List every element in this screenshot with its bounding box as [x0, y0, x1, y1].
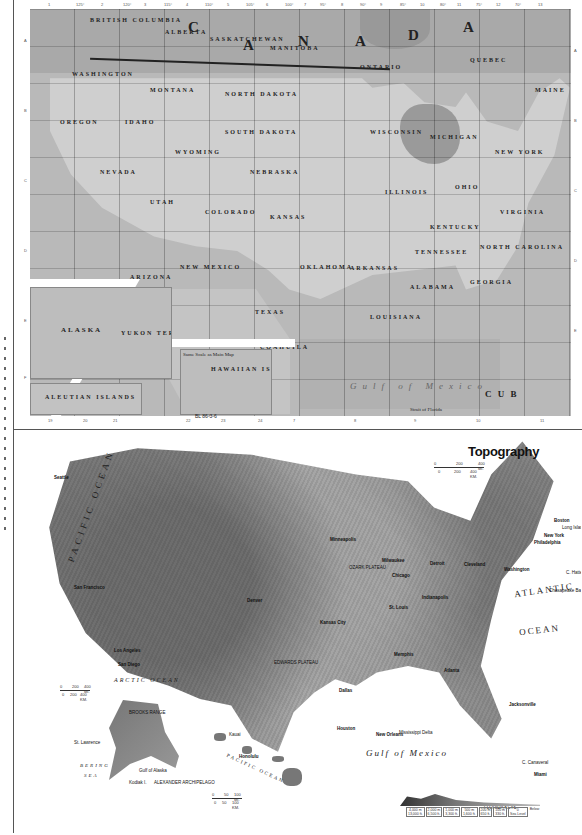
state-label: MICHIGAN: [430, 134, 479, 140]
feature-label: C. Canaveral: [522, 760, 548, 765]
longitude-tick: 80°: [440, 2, 446, 7]
longitude-tick: 75°: [476, 2, 482, 7]
state-label: OREGON: [60, 119, 99, 125]
row-letter: D: [24, 248, 27, 253]
state-label: MAINE: [535, 87, 566, 93]
city-label: Kansas City: [320, 620, 346, 625]
row-letter: B: [24, 108, 27, 113]
scale-label: 100 KM.: [232, 800, 242, 810]
province-label: SASKATCHEWAN: [210, 36, 285, 42]
strait-label: Strait of Florida: [410, 407, 442, 412]
column-number: 23: [221, 418, 225, 423]
city-label: Memphis: [394, 652, 414, 657]
elevation-legend: 4,000 m13,000 ft. 2,000 m6,500 ft. 1,000…: [406, 807, 540, 817]
main-scale-bar: 0 200 400 MI. 0 200 400 KM.: [434, 462, 484, 474]
row-letter: A: [574, 48, 577, 53]
state-label: NEW MEXICO: [180, 264, 241, 270]
column-number: 11: [457, 2, 461, 7]
state-label: WYOMING: [175, 149, 221, 155]
feature-label: OZARK PLATEAU: [349, 565, 386, 570]
cuba-label: C U B: [485, 389, 519, 399]
column-number: 12: [496, 2, 500, 7]
column-number: 4: [186, 2, 188, 7]
scale-label: 200: [456, 461, 463, 466]
state-label: UTAH: [150, 199, 175, 205]
state-label: IDAHO: [125, 119, 155, 125]
province-label: ALBERTA: [165, 29, 207, 35]
column-number: 7: [293, 418, 295, 423]
alaska-label: ALASKA: [61, 326, 102, 334]
city-label: Jacksonville: [509, 702, 536, 707]
city-label: San Francisco: [74, 585, 105, 590]
row-letter: D: [574, 258, 577, 263]
state-label: ALABAMA: [410, 284, 455, 290]
scale-label: 400 KM.: [80, 692, 90, 702]
legend-cell: 0Sea Level: [508, 807, 528, 817]
inset-separator: [30, 279, 130, 287]
legend-cell: 4,000 m13,000 ft.: [406, 807, 425, 817]
scale-label: 0: [438, 469, 440, 474]
scale-label: 50: [222, 800, 226, 805]
political-map: C A N A D A BRITISH COLUMBIA ALBERTA SAS…: [30, 9, 571, 416]
oahu-island: [242, 746, 252, 754]
state-label: NORTH DAKOTA: [225, 91, 298, 97]
scale-label: 0: [434, 461, 436, 466]
column-number: 22: [186, 418, 190, 423]
row-letter: B: [574, 118, 577, 123]
state-label: OHIO: [455, 184, 479, 190]
state-label: NEBRASKA: [250, 169, 299, 175]
state-label: TEXAS: [255, 309, 285, 315]
scale-label: 200: [454, 469, 461, 474]
longitude-tick: 100°: [285, 2, 293, 7]
city-label: Honolulu: [239, 754, 259, 759]
longitude-tick: 120°: [123, 2, 131, 7]
column-number: 9: [380, 2, 382, 7]
feature-label: C. Hatteras: [566, 570, 581, 575]
state-label: KENTUCKY: [430, 224, 481, 230]
state-label: NEVADA: [100, 169, 137, 175]
column-number: 10: [476, 418, 480, 423]
scale-label: 0: [62, 692, 64, 697]
feature-label: Mississippi Delta: [399, 730, 433, 735]
binding-marks: [2, 330, 8, 830]
scale-label: 200: [70, 692, 77, 697]
state-label: ILLINOIS: [385, 189, 428, 195]
hawaii-inset: Same Scale as Main Map HAWAIIAN ISLANDS: [180, 349, 272, 415]
column-number: 9: [414, 418, 416, 423]
state-label: WISCONSIN: [370, 129, 423, 135]
state-label: TENNESSEE: [415, 249, 468, 255]
city-label: Minneapolis: [330, 537, 356, 542]
scale-label: 0: [214, 800, 216, 805]
feature-label: Kauai: [229, 732, 241, 737]
gulf-of-mexico-label: Gulf of Mexico: [366, 748, 448, 758]
legend-cell: 1,000 m3,300 ft.: [443, 807, 460, 817]
atlantic-ocean-label-2: OCEAN: [519, 623, 561, 637]
city-label: San Diego: [118, 662, 140, 667]
row-letter: F: [24, 375, 26, 380]
topography-map: Topography 0 200 400 MI. 0 200 400 KM. P…: [14, 430, 581, 833]
city-label: Atlanta: [444, 668, 459, 673]
column-number: 2: [101, 2, 103, 7]
alaska-inset: ALASKA YUKON TERRITORY: [30, 287, 172, 379]
province-label: QUEBEC: [470, 57, 507, 63]
scale-label: 0: [212, 792, 214, 797]
column-number: 8: [354, 418, 356, 423]
country-label-canada: A: [463, 19, 474, 36]
row-letter: E: [24, 318, 27, 323]
arctic-ocean-label: ARCTIC OCEAN: [114, 677, 180, 683]
legend-cell: 2,000 m6,500 ft.: [426, 807, 443, 817]
map-code: BL 86-3-6: [195, 413, 217, 419]
state-label: ARKANSAS: [350, 265, 399, 271]
column-number: 21: [113, 418, 117, 423]
bering-sea-label-2: SEA: [84, 773, 99, 778]
hawaii-label: HAWAIIAN ISLANDS: [211, 366, 272, 372]
state-label: OKLAHOMA: [300, 264, 353, 270]
city-label: Cleveland: [464, 562, 485, 567]
feature-label: Chesapeake Bay: [549, 588, 581, 593]
state-label: GEORGIA: [470, 279, 513, 285]
longitude-tick: 105°: [246, 2, 254, 7]
row-letter: E: [574, 328, 577, 333]
hawaii-scale-bar: 0 50 100 MI. 0 50 100 KM.: [212, 793, 242, 805]
gulf-of-mexico-label: Gulf of Mexico: [350, 381, 488, 391]
state-label: NEW YORK: [495, 149, 545, 155]
